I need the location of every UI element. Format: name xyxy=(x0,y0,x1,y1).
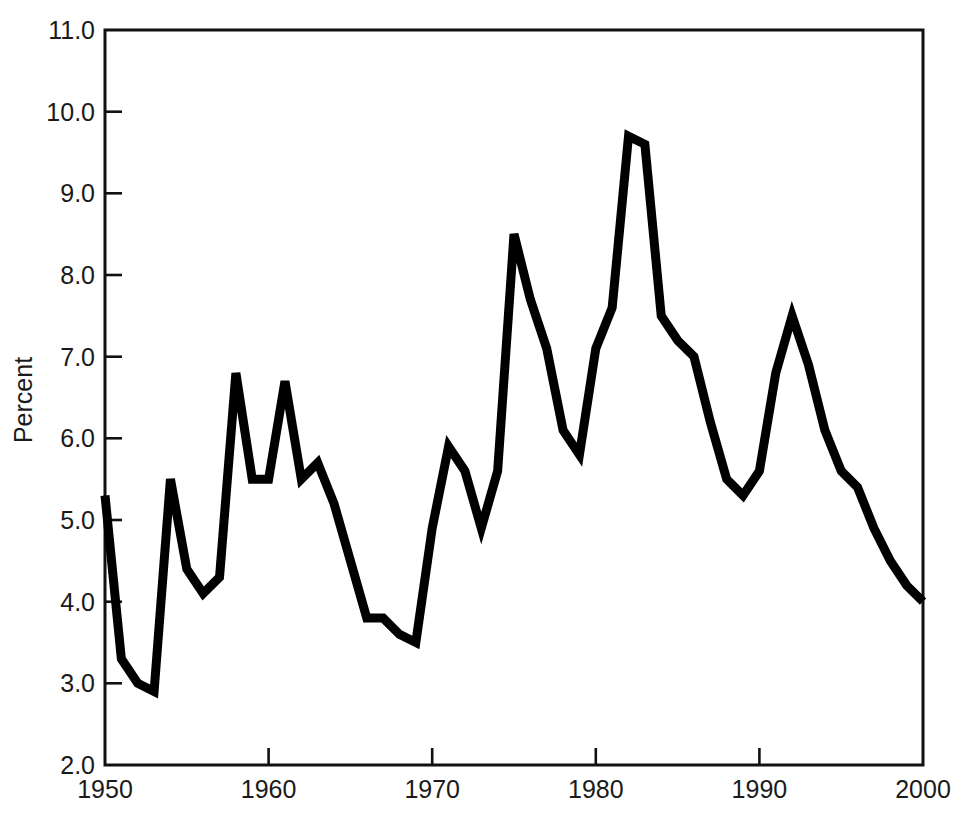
x-tick-label-1980: 1980 xyxy=(568,775,624,803)
y-tick-label-4: 4.0 xyxy=(60,588,95,616)
chart-page: 11.0 10.0 9.0 8.0 7.0 6.0 5.0 4.0 3.0 2.… xyxy=(0,0,974,818)
x-tick-label-1970: 1970 xyxy=(404,775,460,803)
x-tick-label-1990: 1990 xyxy=(732,775,788,803)
y-tick-label-5: 5.0 xyxy=(60,506,95,534)
unemployment-line-chart: 11.0 10.0 9.0 8.0 7.0 6.0 5.0 4.0 3.0 2.… xyxy=(0,0,974,818)
x-axis-tick-labels: 1950 1960 1970 1980 1990 2000 xyxy=(77,775,951,803)
y-tick-label-7: 7.0 xyxy=(60,343,95,371)
y-axis-title: Percent xyxy=(9,357,37,443)
y-tick-label-6: 6.0 xyxy=(60,424,95,452)
x-tick-label-1960: 1960 xyxy=(241,775,297,803)
x-axis-ticks xyxy=(269,748,760,765)
y-tick-label-11: 11.0 xyxy=(48,16,95,44)
y-tick-label-3: 3.0 xyxy=(60,669,95,697)
series-line-percent xyxy=(105,136,923,691)
plot-frame xyxy=(105,30,923,765)
y-tick-label-10: 10.0 xyxy=(46,98,95,126)
x-tick-label-2000: 2000 xyxy=(895,775,951,803)
y-tick-label-8: 8.0 xyxy=(60,261,95,289)
y-axis-tick-labels: 11.0 10.0 9.0 8.0 7.0 6.0 5.0 4.0 3.0 2.… xyxy=(46,16,95,779)
x-tick-label-1950: 1950 xyxy=(77,775,133,803)
y-tick-label-9: 9.0 xyxy=(60,179,95,207)
